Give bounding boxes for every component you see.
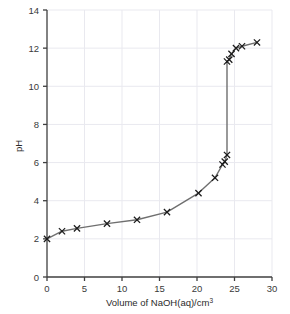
x-tick-label: 10 (117, 283, 128, 294)
y-tick-label: 12 (28, 43, 39, 54)
y-axis-title: pH (13, 140, 24, 152)
x-tick-label: 15 (154, 283, 165, 294)
x-tick-label: 30 (267, 283, 278, 294)
y-tick-label: 4 (34, 195, 39, 206)
chart-background (0, 0, 290, 314)
x-tick-label: 20 (192, 283, 203, 294)
x-tick-label: 0 (44, 283, 49, 294)
y-tick-label: 6 (34, 157, 39, 168)
y-tick-label: 2 (34, 233, 39, 244)
y-tick-label: 0 (34, 272, 39, 283)
y-tick-label: 10 (28, 81, 39, 92)
y-tick-label: 8 (34, 119, 39, 130)
x-axis-title: Volume of NaOH(aq)/cm3 (106, 297, 213, 309)
x-tick-label: 25 (229, 283, 240, 294)
chart-canvas: 051015202530 02468101214 Volume of NaOH(… (0, 0, 290, 314)
titration-chart: 051015202530 02468101214 Volume of NaOH(… (0, 0, 290, 314)
x-axis-title-superscript: 3 (209, 297, 213, 304)
x-tick-label: 5 (82, 283, 87, 294)
y-tick-label: 14 (28, 5, 39, 16)
